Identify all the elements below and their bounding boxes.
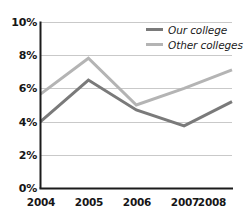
x-tick-label: 2006 — [117, 197, 157, 208]
legend-color-swatch-icon — [146, 43, 163, 46]
legend-label: Our college — [168, 24, 227, 36]
x-tick-label: 2005 — [69, 197, 109, 208]
legend-item-other-colleges: Other colleges — [146, 38, 243, 51]
legend-label: Other colleges — [168, 39, 243, 51]
legend-item-our-college: Our college — [146, 23, 243, 36]
line-chart: 10% 8% 6% 4% 2% 0% 2004 2005 2006 2007 2… — [0, 0, 245, 221]
x-tick-label: 2004 — [21, 197, 61, 208]
x-tick-label: 2008 — [192, 197, 232, 208]
legend-color-swatch-icon — [146, 28, 163, 31]
chart-legend: Our college Other colleges — [146, 23, 243, 51]
